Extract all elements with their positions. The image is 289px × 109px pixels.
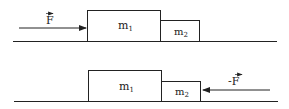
svg-text:-F: -F [228,75,240,88]
two-block-force-diagram: F m1 m2 m1 m2 -F [0,0,289,109]
svg-text:F: F [46,14,54,27]
top-scene: F m1 m2 [13,11,277,42]
force-label: F [46,14,54,28]
force-label: -F [228,75,242,89]
bottom-scene: m1 m2 -F [14,71,278,102]
